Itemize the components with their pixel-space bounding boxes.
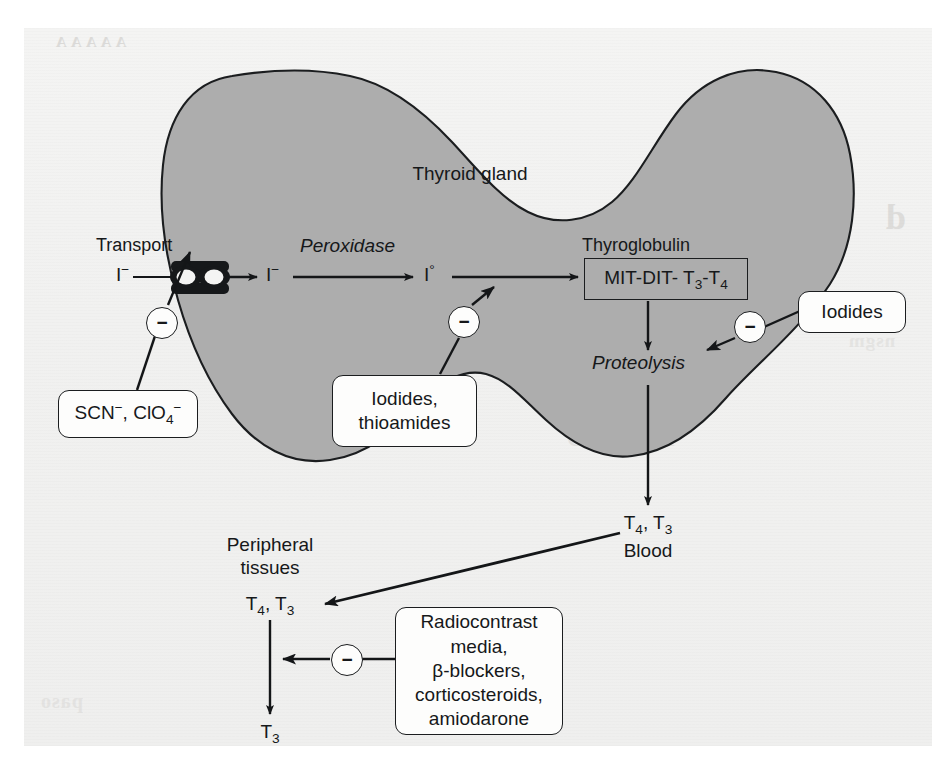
transport-label: Transport xyxy=(96,235,172,256)
gland-label: Thyroid gland xyxy=(400,163,540,185)
peripheral-inhibitor-line4: corticosteroids, xyxy=(415,683,543,707)
iodide-extracellular-label: I− xyxy=(116,262,129,287)
proteolysis-label: Proteolysis xyxy=(592,352,685,374)
peripheral-tissues-line2: tissues xyxy=(190,557,350,579)
figure-canvas: A A A A A d s HASTINGS MD, PhD nsgm paso xyxy=(0,0,940,776)
inhibition-symbol-proteolysis: − xyxy=(734,311,766,343)
peroxidase-label: Peroxidase xyxy=(300,235,395,257)
peripheral-t4t3-label: T4, T3 xyxy=(220,593,320,619)
blood-label: Blood xyxy=(598,540,698,562)
iodide-intracellular-label: I− xyxy=(266,262,279,287)
inhibition-symbol-organification: − xyxy=(448,306,480,338)
inhibition-symbol-transport: − xyxy=(146,307,178,339)
peripheral-inhibitor-line2: media, xyxy=(450,635,507,659)
peripheral-inhibitor-box[interactable]: Radiocontrast media, β-blockers, cortico… xyxy=(395,607,563,735)
thyroglobulin-box-text: MIT-DIT- T3-T4 xyxy=(604,267,728,292)
peripheral-inhibitor-line1: Radiocontrast xyxy=(420,610,537,634)
t3-label: T3 xyxy=(220,721,320,747)
organification-inhibitor-line2: thioamides xyxy=(359,411,451,435)
thyroglobulin-box: MIT-DIT- T3-T4 xyxy=(584,258,748,300)
blood-t4t3-label: T4, T3 xyxy=(598,512,698,538)
line-transport-inhibitor-to-minus xyxy=(137,336,155,390)
inhibition-symbol-peripheral: − xyxy=(331,644,363,676)
peripheral-inhibitor-line5: amiodarone xyxy=(429,707,529,731)
peripheral-inhibitor-line3: β-blockers, xyxy=(432,659,525,683)
organification-inhibitor-line1: Iodides, xyxy=(371,387,438,411)
thyroglobulin-label: Thyroglobulin xyxy=(582,235,690,256)
transport-inhibitor-box[interactable]: SCN−, ClO4− xyxy=(58,390,198,438)
proteolysis-inhibitor-box[interactable]: Iodides xyxy=(798,291,906,333)
arrow-blood-to-peripheral-tissues xyxy=(325,533,620,604)
proteolysis-inhibitor-line1: Iodides xyxy=(821,300,882,324)
iodine-atom-label: I° xyxy=(424,262,435,287)
peripheral-tissues-line1: Peripheral xyxy=(190,534,350,556)
organification-inhibitor-box[interactable]: Iodides, thioamides xyxy=(332,375,477,447)
transport-inhibitor-text: SCN−, ClO4− xyxy=(75,399,182,429)
